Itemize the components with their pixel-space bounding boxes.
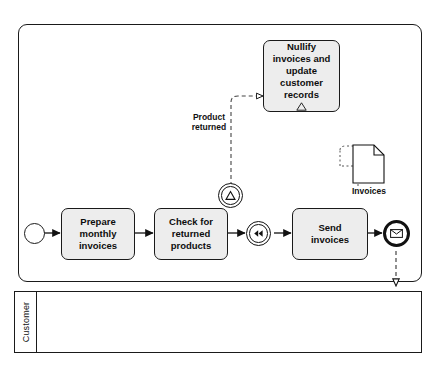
task-prepare-line2: monthly bbox=[79, 228, 117, 240]
document-icon bbox=[352, 144, 385, 184]
task-check-line1: Check for bbox=[169, 216, 213, 228]
task-send-invoices[interactable]: Send invoices bbox=[292, 208, 368, 260]
task-prepare-line1: Prepare bbox=[79, 216, 117, 228]
diagram-canvas: Customer bbox=[0, 0, 439, 376]
intermediate-signal-event[interactable] bbox=[246, 221, 271, 246]
start-event[interactable] bbox=[24, 223, 45, 244]
task-nullify-line2: invoices and bbox=[273, 53, 331, 65]
boundary-event-inner-ring bbox=[221, 186, 240, 205]
label-product-returned-line2: returned bbox=[192, 122, 226, 132]
task-nullify-invoices[interactable]: Nullify invoices and update customer rec… bbox=[263, 40, 340, 112]
task-nullify-line3: update bbox=[273, 65, 331, 77]
task-check-returned-products[interactable]: Check for returned products bbox=[154, 208, 228, 260]
task-send-line1: Send bbox=[311, 222, 349, 234]
signal-icon bbox=[225, 190, 236, 201]
task-send-line2: invoices bbox=[311, 234, 349, 246]
task-nullify-line1: Nullify bbox=[273, 41, 331, 53]
signal-icon bbox=[296, 102, 307, 111]
label-product-returned-line1: Product bbox=[193, 112, 225, 122]
task-nullify-line4: customer bbox=[273, 77, 331, 89]
task-check-line2: returned bbox=[169, 228, 213, 240]
task-prepare-line3: invoices bbox=[79, 240, 117, 252]
task-prepare-monthly-invoices[interactable]: Prepare monthly invoices bbox=[61, 208, 135, 260]
label-product-returned: Product returned bbox=[180, 112, 238, 132]
boundary-signal-event[interactable] bbox=[218, 183, 243, 208]
envelope-icon bbox=[390, 229, 403, 238]
data-object-invoices[interactable] bbox=[352, 144, 385, 184]
intermediate-event-inner-ring bbox=[249, 224, 268, 243]
task-check-line3: products bbox=[169, 240, 213, 252]
task-nullify-line5: records bbox=[273, 89, 331, 101]
label-invoices-data: Invoices bbox=[336, 186, 402, 196]
double-triangle-icon bbox=[253, 228, 264, 239]
end-message-event[interactable] bbox=[383, 220, 410, 247]
